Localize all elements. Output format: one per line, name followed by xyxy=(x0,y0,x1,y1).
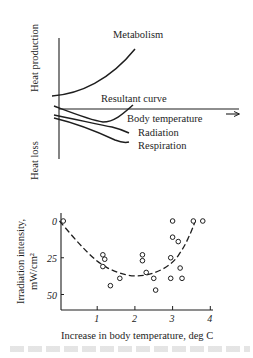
data-point xyxy=(170,219,175,224)
metabolism-curve xyxy=(52,49,135,96)
heat-production-label: Heat production xyxy=(29,23,40,92)
data-point xyxy=(200,219,205,224)
data-point xyxy=(140,258,145,263)
resultant-curve-label: Resultant curve xyxy=(101,93,167,104)
data-point xyxy=(144,270,149,275)
x-tick-label: 4 xyxy=(207,313,212,324)
y-axis-label-line1: Irradiation intensity, xyxy=(15,219,26,304)
y-tick-label: 25 xyxy=(47,253,57,264)
data-point xyxy=(140,253,145,258)
body-temperature-label: Body temperature xyxy=(127,113,203,124)
data-point xyxy=(101,253,106,258)
heat-loss-label: Heat loss xyxy=(29,141,40,180)
data-point xyxy=(168,276,173,281)
y-tick-label: 50 xyxy=(47,290,57,301)
resultant-curve xyxy=(54,105,133,122)
data-point xyxy=(118,276,123,281)
data-point xyxy=(102,257,107,262)
data-point xyxy=(178,266,183,271)
scatter-chart: 123402550 xyxy=(47,213,213,324)
x-tick-label: 3 xyxy=(169,313,175,324)
data-point xyxy=(153,288,158,293)
data-point xyxy=(191,219,196,224)
data-point xyxy=(170,235,175,240)
y-tick-label: 0 xyxy=(52,216,57,227)
figure: Metabolism Resultant curve Body temperat… xyxy=(0,0,253,358)
y-axis-label-line2: mW/cm² xyxy=(28,253,39,290)
arrow-right-icon xyxy=(226,112,240,117)
x-axis-label: Increase in body temperature, deg C xyxy=(61,330,213,341)
respiration-curve xyxy=(54,118,129,142)
data-point xyxy=(176,239,181,244)
data-point xyxy=(101,264,106,269)
data-point xyxy=(168,255,173,260)
cut-off-caption xyxy=(10,346,250,352)
data-point xyxy=(180,276,185,281)
data-point xyxy=(151,276,156,281)
metabolism-label: Metabolism xyxy=(113,29,163,40)
data-point xyxy=(108,283,113,288)
x-tick-label: 1 xyxy=(94,313,99,324)
x-tick-label: 2 xyxy=(132,313,137,324)
fitted-dashed-curve xyxy=(60,221,196,276)
radiation-label: Radiation xyxy=(138,127,180,138)
data-point xyxy=(61,219,66,224)
respiration-label: Respiration xyxy=(138,140,187,151)
